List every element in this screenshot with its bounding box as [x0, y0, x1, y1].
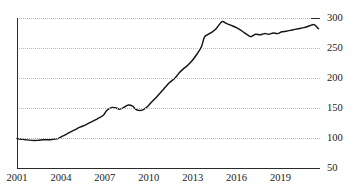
- y-axis-top-tick: [311, 18, 320, 19]
- x-axis-label-2016: 2016: [217, 172, 257, 184]
- gridline-y-100: [17, 138, 320, 139]
- y-axis-label-100: 100: [327, 133, 343, 143]
- y-axis-label-300: 300: [327, 13, 343, 23]
- series-line-layer: [17, 18, 320, 168]
- chart-container: 3002502001501005020012004200720102013201…: [0, 0, 355, 195]
- y-axis-line: [17, 18, 18, 169]
- gridline-y-300: [17, 18, 320, 19]
- y-axis-label-250: 250: [327, 43, 343, 53]
- gridline-y-150: [17, 108, 320, 109]
- x-axis-label-2007: 2007: [85, 172, 125, 184]
- y-axis-label-150: 150: [327, 103, 343, 113]
- x-axis-label-2004: 2004: [41, 172, 81, 184]
- x-axis-label-2019: 2019: [260, 172, 300, 184]
- x-axis-line: [17, 168, 320, 169]
- gridline-y-200: [17, 78, 320, 79]
- y-axis-label-50: 50: [327, 163, 338, 173]
- x-axis-label-2010: 2010: [129, 172, 169, 184]
- plot-area: [17, 18, 320, 168]
- series-line-index: [17, 21, 319, 140]
- x-axis-label-2013: 2013: [173, 172, 213, 184]
- gridline-y-250: [17, 48, 320, 49]
- x-axis-label-2001: 2001: [0, 172, 37, 184]
- y-axis-label-200: 200: [327, 73, 343, 83]
